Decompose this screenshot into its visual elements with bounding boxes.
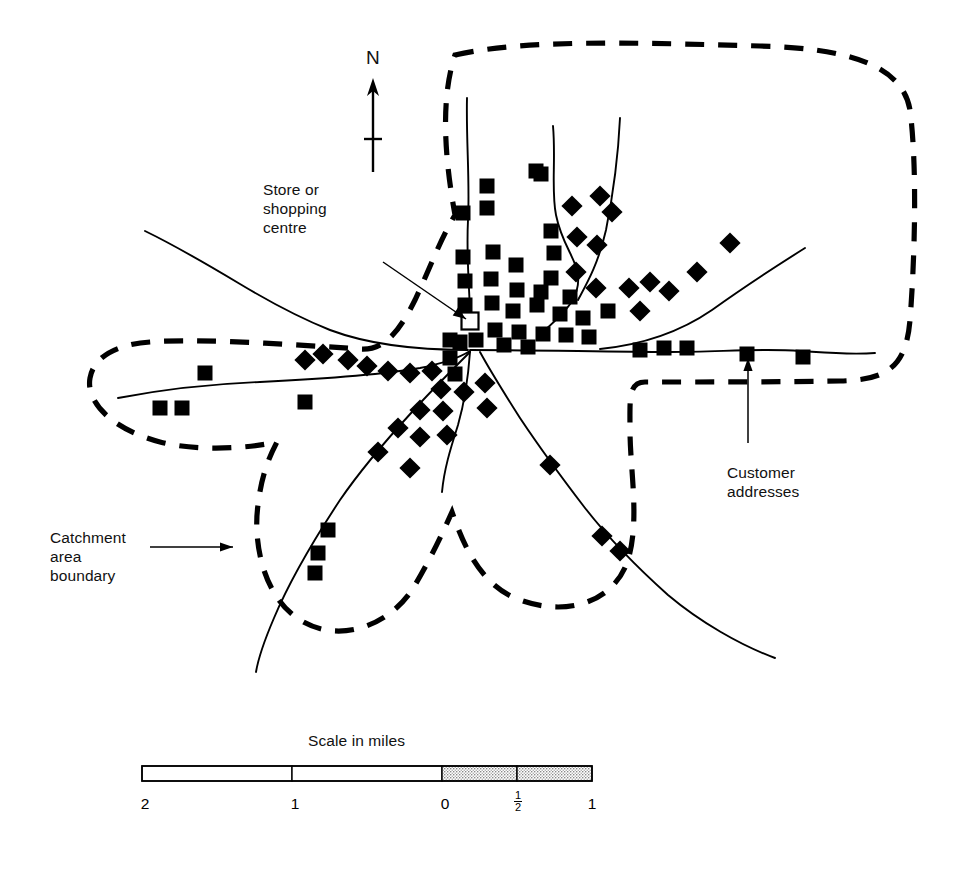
road-west-upper (145, 231, 468, 350)
customer-address-marker (432, 400, 453, 421)
fraction-denominator: 2 (514, 802, 522, 813)
customer-address-marker (485, 296, 500, 311)
customer-address-marker (563, 290, 578, 305)
customer-addresses-label: Customer addresses (727, 463, 799, 501)
scale-bar-segment (517, 766, 592, 781)
scale-title: Scale in miles (308, 731, 405, 750)
scale-bar-segment (142, 766, 292, 781)
customer-address-marker (458, 298, 473, 313)
customer-address-marker (544, 271, 559, 286)
customer-address-marker (430, 378, 451, 399)
customer-address-marker (719, 232, 740, 253)
customer-address-marker (512, 325, 527, 340)
scale-bar (142, 766, 592, 781)
customer-address-marker (553, 307, 568, 322)
scale-tick-2: 2 (125, 795, 165, 813)
customer-address-marker (530, 298, 545, 313)
customer-address-markers (153, 164, 811, 581)
customer-address-marker (448, 367, 463, 382)
scale-tick-0: 0 (425, 795, 465, 813)
scale-tick-1-left: 1 (275, 795, 315, 813)
customer-address-marker (399, 457, 420, 478)
customer-address-marker (456, 250, 471, 265)
customer-address-marker (680, 341, 695, 356)
store-or-shopping-centre-symbol (462, 313, 479, 330)
customer-address-marker (469, 333, 484, 348)
customer-address-marker (536, 327, 551, 342)
customer-address-marker (566, 226, 587, 247)
customer-address-marker (458, 274, 473, 289)
customer-address-marker (294, 349, 315, 370)
customer-address-marker (488, 323, 503, 338)
customer-address-marker (476, 397, 497, 418)
store-label: Store or shopping centre (263, 180, 327, 237)
scale-tick-half: 12 (498, 790, 538, 813)
customer-address-marker (609, 540, 630, 561)
store-symbol (462, 313, 479, 330)
customer-address-marker (153, 401, 168, 416)
customer-address-marker (409, 426, 430, 447)
customer-address-marker (565, 261, 586, 282)
customer-address-marker (436, 424, 457, 445)
customer-address-marker (377, 360, 398, 381)
customer-address-marker (198, 366, 213, 381)
customer-address-marker (657, 341, 672, 356)
customer-address-marker (561, 195, 582, 216)
customer-address-marker (547, 246, 562, 261)
customer-address-marker (486, 245, 501, 260)
store-leader (383, 262, 466, 319)
map-canvas (0, 0, 960, 869)
customer-address-marker (409, 399, 430, 420)
north-arrow (364, 78, 382, 172)
customer-address-marker (658, 280, 679, 301)
customer-address-marker (534, 285, 549, 300)
customer-address-marker (298, 395, 313, 410)
customer-address-marker (399, 362, 420, 383)
customer-address-marker (740, 347, 755, 362)
customer-address-marker (308, 566, 323, 581)
customer-address-marker (796, 350, 811, 365)
customer-address-marker (480, 201, 495, 216)
customer-address-marker (311, 546, 326, 561)
customer-address-marker (497, 338, 512, 353)
customer-address-marker (443, 351, 458, 366)
customer-address-marker (534, 167, 549, 182)
catchment-area-boundary-label: Catchment area boundary (50, 528, 126, 585)
customer-address-marker (456, 206, 471, 221)
customer-address-marker (576, 311, 591, 326)
customer-address-marker (559, 328, 574, 343)
customer-address-marker (474, 372, 495, 393)
customer-address-marker (618, 277, 639, 298)
leader-arrowhead-icon (220, 542, 233, 551)
customer-address-marker (521, 340, 536, 355)
scale-bar-segment (442, 766, 517, 781)
north-label: N (366, 48, 380, 67)
customer-address-marker (509, 258, 524, 273)
customer-address-marker (484, 272, 499, 287)
road-southeast-diag (480, 352, 775, 658)
customer-address-marker (453, 381, 474, 402)
customer-address-marker (544, 224, 559, 239)
customer-address-marker (510, 283, 525, 298)
road-southwest-diag (256, 352, 470, 672)
customer-address-marker (480, 179, 495, 194)
customer-address-marker (591, 525, 612, 546)
customer-address-marker (686, 261, 707, 282)
customer-address-marker (582, 330, 597, 345)
customer-address-marker (506, 304, 521, 319)
customer-address-marker (589, 185, 610, 206)
scale-tick-1-right: 1 (572, 795, 612, 813)
customer-address-marker (453, 335, 468, 350)
road-northeast-diag (600, 248, 805, 349)
customer-address-marker (175, 401, 190, 416)
customer-address-marker (321, 523, 336, 538)
customer-address-marker (337, 349, 358, 370)
customer-address-marker (601, 201, 622, 222)
customer-address-marker (639, 271, 660, 292)
catchment-area-map: N Store or shopping centre Customer addr… (0, 0, 960, 869)
customer-address-marker (601, 304, 616, 319)
customer-address-marker (633, 343, 648, 358)
scale-bar-segment (292, 766, 442, 781)
customer-address-marker (629, 300, 650, 321)
